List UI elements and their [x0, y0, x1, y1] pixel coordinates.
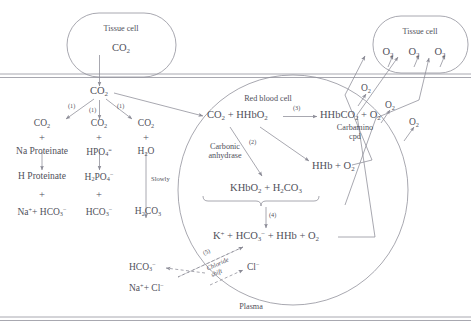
branch2-co2: CO2 [91, 119, 107, 129]
branch1-na-hco3: Na++ HCO3− [17, 207, 66, 218]
branch3-plus1: + [143, 133, 149, 144]
branch2-plus1: + [96, 133, 102, 144]
tissue-cell-left-label: Tissue cell [104, 25, 139, 33]
plasma-hco3: HCO3− [129, 262, 156, 273]
carbamino-label-line1: Carbamino [337, 124, 373, 132]
branch2-h2po4: H2PO4− [85, 172, 114, 183]
tissue-cell-right-outline [373, 16, 468, 73]
rbc-chloride: Cl− [247, 262, 260, 272]
arrow-hco3-left [166, 268, 205, 273]
arrow-plasma-o2-c [404, 127, 414, 141]
reaction-number-4: (4) [269, 212, 276, 218]
carbonic-anhydrase-line1: Carbonic [210, 143, 240, 151]
plasma-o2-2: O2 [385, 101, 395, 111]
rbc-hhb-o2: HHb + O2 [312, 161, 355, 173]
branch1-co2: CO2 [34, 119, 50, 129]
reaction-number-3: (3) [293, 105, 300, 111]
arrow-to-hhb-o2 [260, 127, 309, 161]
branch3-h2co3: H2CO3 [135, 207, 161, 217]
branch3-h2o: H2O [138, 147, 155, 157]
branch1-plus1: + [39, 133, 45, 144]
reaction-number-2: (2) [249, 139, 256, 145]
plasma-o2-3: O2 [409, 118, 419, 128]
red-blood-cell-label: Red blood cell [244, 95, 292, 103]
rbc-products: K+ + HCO3− + HHb + O2 [213, 231, 319, 243]
line-o2-release-a [352, 160, 372, 165]
gas-transport-diagram: Tissue cell CO2 Tissue cell O2 O2 O2 CO2… [0, 0, 471, 331]
slowly-label: Slowly [151, 176, 170, 183]
carbamino-label-line2: cpd [349, 133, 361, 141]
tissue-cell-left-co2: CO2 [112, 43, 130, 55]
reaction-number-1a: (1) [68, 103, 75, 109]
branch2-hco3: HCO3− [86, 207, 113, 218]
plasma-o2-1: O2 [361, 84, 371, 94]
tissue-cell-right-o2-1: O2 [382, 47, 393, 59]
line-o2-release-c [376, 100, 419, 118]
rbc-khbo2-h2co3: KHbO2 + H2CO3 [230, 183, 302, 195]
branch1-plus2: + [39, 190, 45, 201]
reaction-number-1c: (1) [117, 103, 124, 109]
branch1-h-proteinate: H Proteinate [18, 172, 66, 182]
carbonic-anhydrase-line2: anhydrase [208, 152, 241, 160]
diagram-lines [0, 0, 471, 331]
brace-khbo2-h2co3 [203, 196, 319, 206]
rbc-reaction-right: HHbCO2 + O2 [320, 110, 381, 122]
tissue-cell-right-o2-2: O2 [408, 47, 419, 59]
rbc-reaction-left: CO2 + HHbO2 [207, 110, 268, 122]
arrow-o2-to-tissue-c [419, 58, 429, 100]
plasma-co2: CO2 [90, 86, 108, 98]
branch3-co2: CO2 [138, 119, 154, 129]
tissue-cell-right-o2-3: O2 [434, 47, 445, 59]
tissue-cell-right-label: Tissue cell [403, 28, 438, 36]
plasma-na-cl: Na++ Cl− [129, 283, 164, 293]
co2-text: CO [112, 42, 127, 53]
branch2-hpo4: HPO4= [86, 147, 112, 158]
branch1-na-proteinate: Na Proteinate [16, 147, 68, 157]
reaction-number-1b: (1) [89, 107, 96, 113]
co2-sub: 2 [127, 47, 130, 54]
plasma-label: Plasma [239, 303, 263, 311]
branch2-plus2: + [96, 190, 102, 201]
arrow-co2-into-rbc [114, 93, 203, 116]
